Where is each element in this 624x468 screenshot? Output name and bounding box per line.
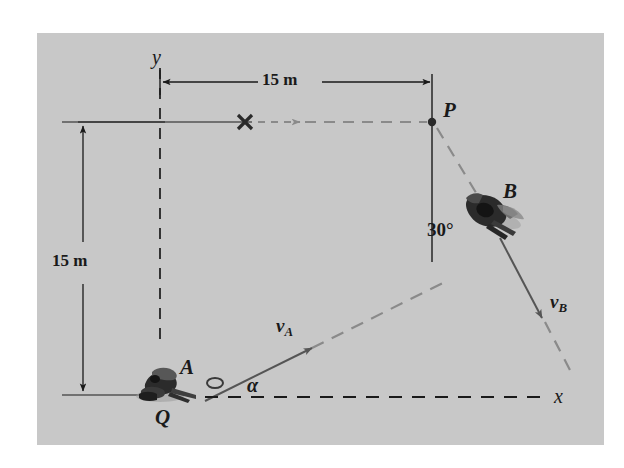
figure-root: y x 15 m 15 m P Q A B 30° α vA vB [0,0,624,468]
diagram-panel [37,33,604,445]
skier-a-label: A [180,357,194,378]
velocity-a-label: vA [276,316,293,339]
velocity-b-label: vB [550,292,567,315]
diagram-svg [0,0,624,468]
skier-b-label: B [503,181,517,202]
point-q-label: Q [155,407,170,428]
velocity-b-subscript: B [558,300,567,315]
horizontal-dimension-label: 15 m [262,71,297,88]
velocity-a-subscript: A [284,324,293,339]
x-axis-label: x [554,386,563,406]
angle-alpha-label: α [247,375,258,395]
vertical-dimension-label: 15 m [52,252,87,269]
angle-beta-label: 30° [427,220,454,239]
y-axis-label: y [152,47,161,67]
point-p-dot [428,118,436,126]
point-p-label: P [443,100,456,121]
